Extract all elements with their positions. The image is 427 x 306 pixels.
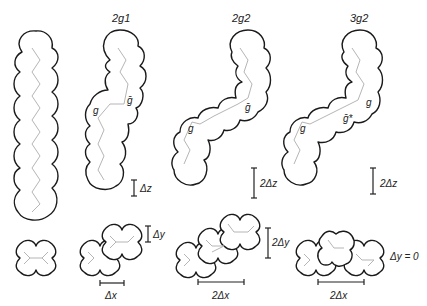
panel-title-3g2: 3g2 — [350, 12, 368, 24]
dz-label: Δz — [139, 183, 152, 194]
cross-section-3g2 — [296, 231, 384, 275]
all-trans-chain — [14, 31, 58, 220]
2dy-label: 2Δy — [271, 237, 290, 248]
panel-title-2g2: 2g2 — [231, 12, 250, 24]
gauche-label: g — [93, 105, 99, 116]
chain-2g2 — [172, 30, 271, 185]
carbon-skeleton — [32, 48, 40, 212]
gauche-label: g — [300, 123, 306, 134]
cross-section-2g2 — [176, 214, 260, 277]
dy-label: Δy — [152, 229, 166, 240]
gauche-label: g — [188, 123, 194, 134]
cross-section-2g1 — [80, 224, 142, 275]
2dz-label: 2Δz — [379, 178, 397, 189]
dy-zero-label: Δy = 0 — [389, 251, 419, 262]
panel-title-2g1: 2g1 — [111, 12, 130, 24]
gauche-bar-label: ḡ — [127, 95, 133, 106]
conformation-diagram: 2g1 g ḡ Δz Δy Δx 2g2 g ḡ 2Δz 2 — [0, 0, 427, 306]
2dx-label: 2Δx — [329, 290, 348, 301]
all-trans-cross-section — [16, 240, 56, 275]
2dz-label: 2Δz — [259, 178, 277, 189]
dx-label: Δx — [104, 290, 118, 301]
gauche-label-2: g — [366, 97, 372, 108]
gauche-bar-star-label: ḡ* — [343, 113, 354, 124]
gauche-bar-label: ḡ — [245, 102, 251, 113]
2dx-label: 2Δx — [211, 290, 230, 301]
